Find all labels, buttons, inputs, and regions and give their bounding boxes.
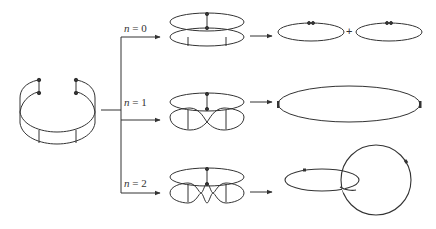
band-n1 (170, 92, 244, 130)
branch-label-n0: n = 0 (124, 22, 147, 34)
diagram-canvas (0, 0, 436, 229)
source-band (20, 78, 95, 144)
band-n0 (170, 12, 244, 46)
plus-sign: + (346, 25, 352, 37)
branch-connectors (101, 37, 160, 193)
result-n2 (285, 145, 411, 215)
result-arrows (250, 36, 272, 192)
branch-label-n2: n = 2 (124, 177, 147, 189)
result-n1 (277, 86, 422, 122)
branch-label-n1: n = 1 (124, 96, 147, 108)
band-n2 (170, 167, 244, 203)
